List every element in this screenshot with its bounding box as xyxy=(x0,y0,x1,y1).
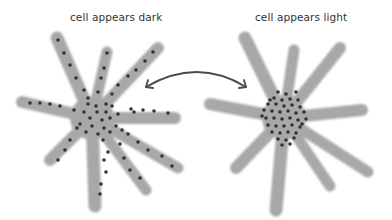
aggregated-cell xyxy=(210,38,368,210)
diagram-canvas xyxy=(0,0,392,220)
double-arrow-icon xyxy=(146,72,246,88)
dispersed-cell xyxy=(22,38,178,206)
